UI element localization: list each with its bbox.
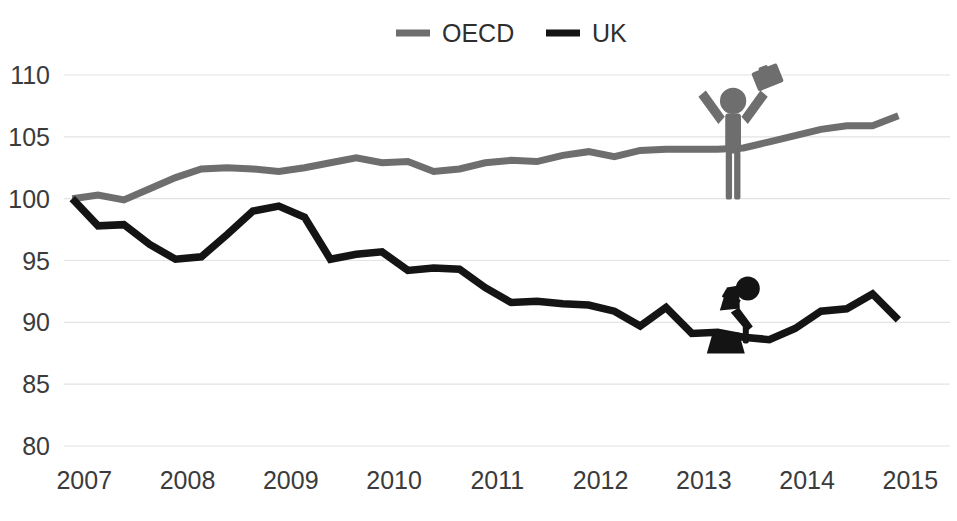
y-tick-label-100: 100	[8, 185, 50, 213]
x-tick-label-2010: 2010	[366, 466, 422, 494]
y-tick-label-90: 90	[22, 308, 50, 336]
x-tick-label-2015: 2015	[883, 466, 939, 494]
x-tick-label-2009: 2009	[263, 466, 319, 494]
x-tick-label-2014: 2014	[779, 466, 835, 494]
y-tick-label-80: 80	[22, 432, 50, 460]
legend-label-oecd: OECD	[442, 19, 514, 47]
x-tick-label-2008: 2008	[160, 466, 216, 494]
x-tick-label-2007: 2007	[56, 466, 112, 494]
y-tick-label-110: 110	[10, 61, 50, 89]
x-axis-tick-labels: 200720082009201020112012201320142015	[56, 466, 938, 494]
y-tick-label-95: 95	[22, 247, 50, 275]
x-tick-label-2011: 2011	[470, 466, 524, 494]
legend-label-uk: UK	[592, 19, 627, 47]
chart-canvas: 80859095100105110 2007200820092010201120…	[0, 0, 957, 521]
line-chart: 80859095100105110 2007200820092010201120…	[0, 0, 957, 521]
x-tick-label-2012: 2012	[573, 466, 629, 494]
y-tick-label-85: 85	[22, 370, 50, 398]
x-tick-label-2013: 2013	[676, 466, 732, 494]
y-tick-label-105: 105	[8, 123, 50, 151]
